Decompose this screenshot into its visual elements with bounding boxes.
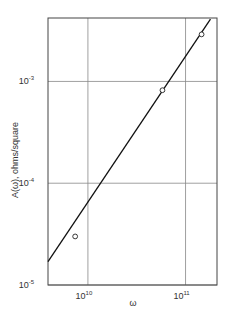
x-tick-label: 1010 xyxy=(76,290,93,301)
y-axis-tick-labels: 10-510-410-3 xyxy=(19,75,35,290)
plot-frame xyxy=(48,18,217,285)
x-axis-title: ω xyxy=(129,298,136,308)
y-tick-label: 10-4 xyxy=(19,177,35,188)
fit-line-path xyxy=(48,19,210,261)
data-point-circle-icon xyxy=(160,88,165,93)
data-markers xyxy=(73,32,204,239)
fit-line xyxy=(48,19,210,261)
y-axis-title: A(ω), ohms/square xyxy=(10,122,20,198)
y-tick-label: 10-3 xyxy=(19,75,35,86)
data-point-circle-icon xyxy=(73,234,78,239)
grid-lines xyxy=(48,18,217,285)
data-point-circle-icon xyxy=(199,32,204,37)
x-tick-label: 1011 xyxy=(173,290,190,301)
y-tick-label: 10-5 xyxy=(19,279,35,290)
chart-canvas: 10101011 10-510-410-3 A(ω), ohms/square … xyxy=(0,0,232,326)
